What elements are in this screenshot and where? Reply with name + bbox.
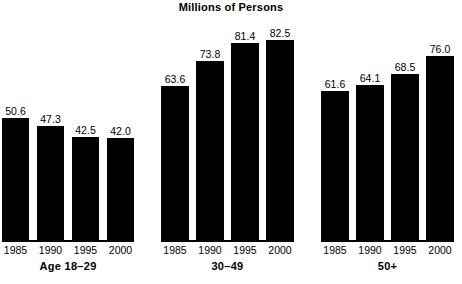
bar[interactable] — [266, 40, 294, 240]
bar[interactable] — [161, 86, 189, 240]
bar-group-30-49: 63.6 73.8 81.4 82.5 1985 1 — [161, 18, 294, 284]
axis-baseline — [161, 240, 294, 242]
bar-slot: 68.5 — [391, 18, 419, 240]
year-label: 1990 — [194, 244, 226, 257]
bar[interactable] — [426, 56, 454, 240]
bar-value-label: 82.5 — [270, 27, 290, 39]
bar-value-label: 63.6 — [165, 73, 185, 85]
bar-slot: 42.5 — [72, 18, 99, 240]
bar[interactable] — [72, 137, 99, 240]
bar-slot: 82.5 — [266, 18, 294, 240]
bar-slot: 42.0 — [107, 18, 134, 240]
bar-slot: 76.0 — [426, 18, 454, 240]
plot-area-group-2: 63.6 73.8 81.4 82.5 — [161, 18, 294, 240]
bar-value-label: 64.1 — [360, 72, 380, 84]
bar-slot: 64.1 — [356, 18, 384, 240]
year-label: 2000 — [424, 244, 456, 257]
group-label-30-49: 30–49 — [161, 260, 294, 272]
bar[interactable] — [37, 126, 64, 240]
bar-chart: Millions of Persons 50.6 47.3 42.5 42.0 — [0, 0, 462, 284]
bar[interactable] — [196, 61, 224, 240]
year-label: 1985 — [0, 244, 31, 257]
bar-group-age-18-29: 50.6 47.3 42.5 42.0 1985 1 — [2, 18, 134, 284]
bar[interactable] — [321, 91, 349, 240]
plot-area-group-1: 50.6 47.3 42.5 42.0 — [2, 18, 134, 240]
bar-value-label: 61.6 — [325, 78, 345, 90]
year-label: 1985 — [319, 244, 351, 257]
axis-baseline — [321, 240, 454, 242]
bar[interactable] — [391, 74, 419, 240]
bar-value-label: 50.6 — [5, 105, 25, 117]
bar-slot: 63.6 — [161, 18, 189, 240]
bar-value-label: 73.8 — [200, 48, 220, 60]
year-label: 2000 — [264, 244, 296, 257]
axis-baseline — [2, 240, 134, 242]
bar[interactable] — [107, 138, 134, 240]
year-labels-group-2: 1985 1990 1995 2000 — [161, 244, 294, 258]
year-label: 1990 — [35, 244, 66, 257]
bar-slot: 61.6 — [321, 18, 349, 240]
year-label: 1985 — [159, 244, 191, 257]
year-label: 1995 — [70, 244, 101, 257]
plot-area-group-3: 61.6 64.1 68.5 76.0 — [321, 18, 454, 240]
bar-slot: 73.8 — [196, 18, 224, 240]
chart-title: Millions of Persons — [0, 1, 462, 13]
bar-value-label: 76.0 — [430, 43, 450, 55]
bar-slot: 50.6 — [2, 18, 29, 240]
year-labels-group-1: 1985 1990 1995 2000 — [2, 244, 134, 258]
year-label: 2000 — [105, 244, 136, 257]
bar-value-label: 47.3 — [40, 113, 60, 125]
bar-group-50-plus: 61.6 64.1 68.5 76.0 1985 1 — [321, 18, 454, 284]
bar-value-label: 68.5 — [395, 61, 415, 73]
year-label: 1995 — [389, 244, 421, 257]
bar[interactable] — [231, 43, 259, 240]
bar-slot: 47.3 — [37, 18, 64, 240]
year-labels-group-3: 1985 1990 1995 2000 — [321, 244, 454, 258]
year-label: 1990 — [354, 244, 386, 257]
chart-groups: 50.6 47.3 42.5 42.0 1985 1 — [0, 18, 462, 284]
bar-value-label: 42.5 — [75, 124, 95, 136]
year-label: 1995 — [229, 244, 261, 257]
bar[interactable] — [356, 85, 384, 240]
bar[interactable] — [2, 118, 29, 240]
group-label-age-18-29: Age 18–29 — [2, 260, 134, 272]
bar-value-label: 42.0 — [110, 125, 130, 137]
bar-slot: 81.4 — [231, 18, 259, 240]
bar-value-label: 81.4 — [235, 30, 255, 42]
group-label-50-plus: 50+ — [321, 260, 454, 272]
